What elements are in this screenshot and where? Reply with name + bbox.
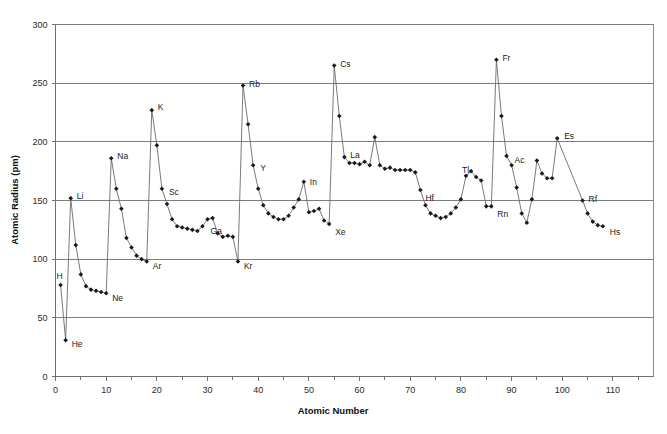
y-tick-label-150: 150 bbox=[32, 196, 47, 206]
annotation-Hf: Hf bbox=[425, 193, 434, 203]
x-tick-label-100: 100 bbox=[555, 385, 570, 395]
y-tick-label-0: 0 bbox=[42, 372, 47, 382]
annotation-Xe: Xe bbox=[335, 227, 346, 237]
y-axis-title: Atomic Radius (pm) bbox=[9, 155, 20, 245]
y-tick-label-100: 100 bbox=[32, 254, 47, 264]
y-tick-label-250: 250 bbox=[32, 78, 47, 88]
y-tick-label-200: 200 bbox=[32, 137, 47, 147]
x-tick-label-20: 20 bbox=[152, 385, 162, 395]
y-tick-label-50: 50 bbox=[37, 313, 47, 323]
annotation-Na: Na bbox=[117, 151, 128, 161]
annotation-Cs: Cs bbox=[340, 59, 350, 69]
y-tick-label-300: 300 bbox=[32, 20, 47, 30]
x-tick-label-10: 10 bbox=[101, 385, 111, 395]
annotation-Sc: Sc bbox=[169, 187, 180, 197]
annotation-In: In bbox=[310, 177, 317, 187]
annotation-Rf: Rf bbox=[589, 194, 598, 204]
x-tick-label-40: 40 bbox=[253, 385, 263, 395]
annotation-Ne: Ne bbox=[112, 293, 123, 303]
annotation-Hs: Hs bbox=[610, 227, 620, 237]
x-tick-label-110: 110 bbox=[606, 385, 620, 395]
x-tick-label-60: 60 bbox=[355, 385, 365, 395]
annotation-Kr: Kr bbox=[244, 261, 253, 271]
annotation-Tl: Tl bbox=[462, 165, 469, 175]
x-tick-label-0: 0 bbox=[53, 385, 58, 395]
x-axis-title: Atomic Number bbox=[298, 405, 369, 416]
annotation-K: K bbox=[158, 102, 164, 112]
annotation-La: La bbox=[350, 150, 360, 160]
annotation-He: He bbox=[72, 339, 83, 349]
atomic-radius-chart: 0102030405060708090100110 05010015020025… bbox=[0, 0, 667, 434]
annotation-Ga: Ga bbox=[211, 226, 223, 236]
annotation-Ar: Ar bbox=[153, 261, 162, 271]
annotation-Y: Y bbox=[260, 163, 266, 173]
annotation-Es: Es bbox=[564, 131, 574, 141]
annotation-Li: Li bbox=[77, 191, 84, 201]
x-tick-label-30: 30 bbox=[203, 385, 213, 395]
annotation-Rn: Rn bbox=[497, 209, 508, 219]
chart-canvas: 0102030405060708090100110 05010015020025… bbox=[0, 0, 667, 434]
annotation-Fr: Fr bbox=[502, 53, 510, 63]
annotation-Ac: Ac bbox=[515, 155, 526, 165]
x-tick-label-80: 80 bbox=[456, 385, 466, 395]
annotation-Rb: Rb bbox=[249, 79, 260, 89]
x-tick-label-70: 70 bbox=[405, 385, 415, 395]
x-tick-label-90: 90 bbox=[507, 385, 517, 395]
x-tick-label-50: 50 bbox=[304, 385, 314, 395]
annotation-H: H bbox=[57, 271, 63, 281]
